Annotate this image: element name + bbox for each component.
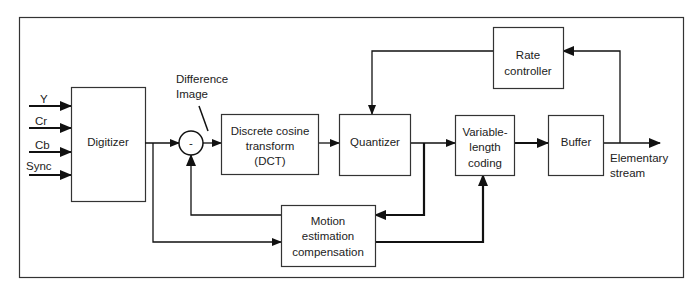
mpeg-encoder-diagram: Y Cr Cb Sync Digitizer - [0,0,700,296]
subtractor-node: - [179,131,203,155]
dct-block: Discrete cosine transform (DCT) [222,115,319,175]
svg-text:Rate: Rate [516,49,540,61]
svg-text:stream: stream [610,167,645,179]
input-label-cr: Cr [35,115,47,127]
svg-text:controller: controller [504,65,551,77]
rate-controller-block: Rate controller [494,28,564,89]
svg-text:(DCT): (DCT) [254,155,285,167]
svg-text:Quantizer: Quantizer [350,136,400,148]
input-label-cb: Cb [35,139,50,151]
svg-text:Difference: Difference [176,73,228,85]
digitizer-block: Digitizer [72,88,146,202]
svg-text:Image: Image [176,88,208,100]
svg-text:compensation: compensation [292,246,364,258]
svg-text:Discrete cosine: Discrete cosine [231,125,310,137]
motion-estimation-block: Motion estimation compensation [282,206,376,267]
quantizer-block: Quantizer [340,115,411,176]
svg-text:coding: coding [468,157,502,169]
input-label-y: Y [40,93,48,105]
svg-text:Elementary: Elementary [610,152,668,164]
svg-text:length: length [469,141,500,153]
svg-text:estimation: estimation [302,230,354,242]
svg-text:transform: transform [246,140,295,152]
svg-text:-: - [189,137,193,149]
svg-text:Buffer: Buffer [561,136,592,148]
difference-image-label: Difference Image [176,73,228,131]
vlc-block: Variable- length coding [456,116,515,176]
buffer-block: Buffer [549,116,604,176]
svg-text:Motion: Motion [311,215,346,227]
input-label-sync: Sync [26,160,52,172]
svg-text:Digitizer: Digitizer [87,136,129,148]
elementary-stream-label: Elementary stream [610,152,668,179]
svg-text:Variable-: Variable- [462,126,507,138]
